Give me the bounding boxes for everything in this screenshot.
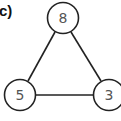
node-label-top: 8	[59, 10, 68, 26]
edge-8-5	[28, 32, 55, 81]
graph-diagram: 8 5 3	[0, 0, 121, 121]
node-label-bottom-right: 3	[105, 87, 114, 103]
edge-8-3	[71, 32, 101, 81]
node-label-bottom-left: 5	[16, 87, 25, 103]
